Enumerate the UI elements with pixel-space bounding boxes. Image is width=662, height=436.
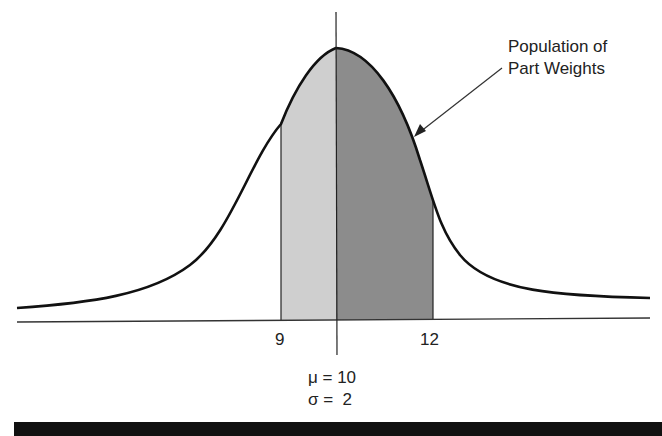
tick-label-12: 12 bbox=[420, 330, 439, 349]
shaded-area-10-to-12 bbox=[336, 48, 433, 320]
shaded-area-9-to-10 bbox=[281, 48, 336, 320]
bottom-edge-bar bbox=[14, 422, 662, 436]
sigma-label: σ = 2 bbox=[308, 390, 352, 409]
tick-label-9: 9 bbox=[275, 330, 284, 349]
annotation-arrow-line bbox=[420, 68, 502, 132]
arrow-head-icon bbox=[414, 124, 426, 137]
mean-label: μ = 10 bbox=[308, 368, 356, 387]
annotation-line-2: Part Weights bbox=[508, 59, 605, 78]
normal-distribution-figure: Population of Part Weights 9 12 μ = 10 σ… bbox=[0, 0, 662, 436]
annotation-line-1: Population of bbox=[508, 37, 608, 56]
